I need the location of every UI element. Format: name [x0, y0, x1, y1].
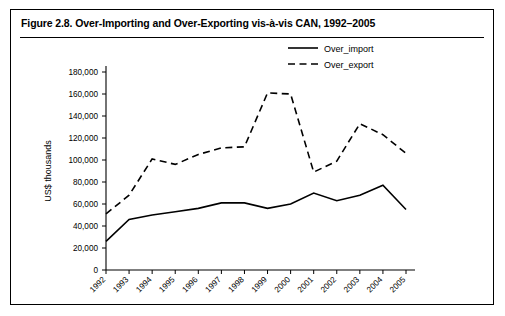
series-line-over_import — [106, 185, 406, 241]
x-tick-label: 2002 — [319, 275, 339, 295]
chart-legend: Over_importOver_export — [288, 44, 374, 70]
x-tick-label: 2001 — [296, 275, 316, 295]
x-tick-label: 1998 — [227, 275, 247, 295]
y-axis-title: US$ thousands — [43, 140, 53, 202]
x-tick-label: 1993 — [111, 275, 131, 295]
x-tick-label: 1995 — [157, 275, 177, 295]
data-series-group — [106, 93, 406, 242]
x-tick-label: 1994 — [134, 275, 154, 295]
x-tick-label: 1992 — [88, 275, 108, 295]
legend-label-over_import: Over_import — [324, 44, 374, 54]
y-tick-label: 120,000 — [68, 134, 98, 143]
y-tick-label: 20,000 — [73, 244, 98, 253]
y-tick-group: 020,00040,00060,00080,000100,000120,0001… — [68, 68, 106, 275]
x-tick-label: 1999 — [250, 275, 270, 295]
x-tick-label: 2004 — [365, 275, 385, 295]
x-axis: 1992199319941995199619971998199920002001… — [88, 270, 415, 304]
legend-label-over_export: Over_export — [324, 60, 374, 70]
line-chart: 020,00040,00060,00080,000100,000120,0001… — [11, 38, 493, 304]
x-tick-group: 1992199319941995199619971998199920002001… — [88, 270, 408, 294]
x-tick-label: 1996 — [180, 275, 200, 295]
y-tick-label: 0 — [93, 266, 98, 275]
x-tick-label: 2005 — [388, 275, 408, 295]
chart-plot-area: 020,00040,00060,00080,000100,000120,0001… — [11, 38, 493, 304]
figure-container: Figure 2.8. Over-Importing and Over-Expo… — [10, 9, 494, 305]
y-tick-label: 160,000 — [68, 90, 98, 99]
y-tick-label: 40,000 — [73, 222, 98, 231]
x-tick-label: 2003 — [342, 275, 362, 295]
y-tick-label: 180,000 — [68, 68, 98, 77]
series-line-over_export — [106, 93, 406, 214]
y-tick-label: 80,000 — [73, 178, 98, 187]
x-tick-label: 1997 — [204, 275, 224, 295]
figure-title: Figure 2.8. Over-Importing and Over-Expo… — [21, 17, 375, 29]
x-tick-label: 2000 — [273, 275, 293, 295]
y-axis: 020,00040,00060,00080,000100,000120,0001… — [43, 66, 106, 275]
y-tick-label: 60,000 — [73, 200, 98, 209]
y-tick-label: 100,000 — [68, 156, 98, 165]
y-tick-label: 140,000 — [68, 112, 98, 121]
